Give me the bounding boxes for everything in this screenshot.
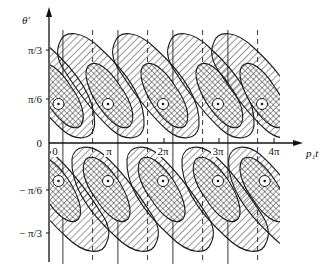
y-ticks: π/3 π/6 0 − π/6 − π/3 [19,44,49,239]
fixed-point-dot [162,180,165,183]
phase-diagram: θ′ p₁t π/3 π/6 0 − π/6 − π/3 0 π 2π 3π 4… [0,0,336,270]
y-tick-label: − π/3 [19,227,43,239]
x-axis-label: p₁t [305,147,319,159]
fixed-point-dot [107,180,110,183]
fixed-point-dot [217,103,220,106]
fixed-point-dot [217,180,220,183]
fixed-point-dot [57,180,60,183]
x-tick-label: 4π [268,145,280,157]
fixed-point-dot [263,180,266,183]
fixed-point-dot [162,103,165,106]
x-axis-arrow-icon [293,140,303,146]
x-tick-label: π [106,145,112,157]
y-axis-label: θ′ [22,14,30,26]
y-axis-arrow-icon [46,7,52,17]
y-tick-label: π/6 [28,93,43,105]
fixed-point-dot [57,103,60,106]
fixed-point-dot [261,103,264,106]
x-tick-label: 3π [212,145,224,157]
y-tick-label: − π/6 [19,184,43,196]
y-tick-label: 0 [37,137,43,149]
y-tick-label: π/3 [28,44,43,56]
x-tick-label: 2π [157,145,169,157]
fixed-point-dot [107,103,110,106]
x-tick-label: 0 [52,145,58,157]
